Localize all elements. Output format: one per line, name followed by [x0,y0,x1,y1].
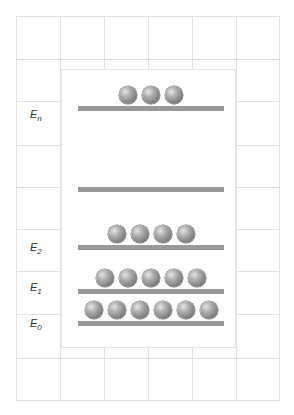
particle-sphere-icon [177,225,195,243]
particle-sphere-icon [165,269,183,287]
grid-column-line [236,16,237,401]
particle-sphere-icon [119,269,137,287]
energy-level-bar-E1 [78,289,224,294]
energy-level-label-E0: E0 [30,317,42,332]
particle-sphere-icon [131,225,149,243]
energy-level-bar-E2 [78,245,224,250]
energy-subscript: n [37,114,41,123]
particle-sphere-icon [165,86,183,104]
particle-sphere-icon [96,269,114,287]
particle-sphere-icon [142,86,160,104]
energy-level-label-E2: E2 [30,241,42,256]
energy-subscript: 0 [37,323,41,332]
energy-level-bar-E0 [78,321,224,326]
particle-sphere-icon [108,225,126,243]
energy-subscript: 1 [37,287,41,296]
particle-sphere-icon [119,86,137,104]
particle-sphere-icon [154,301,172,319]
energy-level-bar-En [78,106,224,111]
particle-sphere-icon [200,301,218,319]
energy-level-label-E1: E1 [30,281,42,296]
energy-level-bar-gap [78,187,224,192]
energy-subscript: 2 [37,247,41,256]
energy-level-label-En: En [30,108,42,123]
particle-sphere-icon [108,301,126,319]
grid-row-line [16,358,280,359]
particle-sphere-icon [177,301,195,319]
particle-sphere-icon [142,269,160,287]
particle-sphere-icon [131,301,149,319]
particle-sphere-icon [85,301,103,319]
particle-sphere-icon [188,269,206,287]
particle-sphere-icon [154,225,172,243]
grid-row-line [16,59,280,60]
